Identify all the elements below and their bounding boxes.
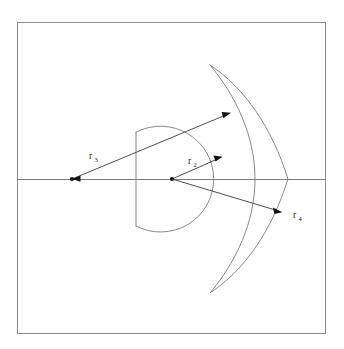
label-r2: r 2 — [188, 156, 197, 168]
radius-line-r3 — [72, 115, 227, 180]
radius-line-r4 — [172, 179, 277, 211]
optical-radii-diagram: r 3 r 2 r 4 — [0, 0, 344, 349]
label-r2-base: r — [188, 156, 192, 166]
radius-arrowhead-r3 — [222, 112, 231, 118]
label-r4-base: r — [293, 210, 297, 220]
label-r3: r 3 — [89, 151, 99, 163]
figure-root: r 3 r 2 r 4 — [0, 0, 344, 349]
label-r4-subscript: 4 — [299, 215, 303, 222]
radius-arrowhead-r4 — [273, 208, 283, 214]
label-r3-base: r — [89, 151, 93, 161]
label-r4: r 4 — [293, 210, 303, 222]
label-r3-subscript: 3 — [95, 156, 99, 163]
vertex-dot-left — [70, 177, 74, 181]
label-r2-subscript: 2 — [194, 161, 197, 168]
